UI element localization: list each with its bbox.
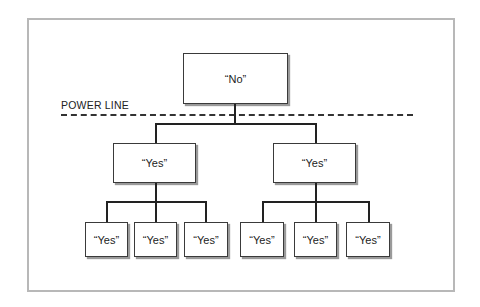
- level2-node-left: “Yes”: [113, 143, 196, 183]
- node-label: “Yes”: [302, 157, 327, 169]
- node-label: “Yes”: [94, 234, 119, 246]
- connector: [106, 201, 108, 222]
- level3-node: “Yes”: [184, 222, 228, 257]
- node-label: “Yes”: [143, 234, 168, 246]
- connector: [262, 201, 264, 222]
- node-label: “Yes”: [249, 234, 274, 246]
- power-line-label: POWER LINE: [61, 99, 129, 111]
- node-label: “Yes”: [303, 234, 328, 246]
- connector: [205, 201, 207, 222]
- level3-node: “Yes”: [85, 222, 128, 257]
- connector: [315, 201, 317, 222]
- level3-node: “Yes”: [240, 222, 284, 257]
- connector: [234, 104, 236, 125]
- node-label: “Yes”: [193, 234, 218, 246]
- connector: [155, 123, 157, 143]
- node-label: “Yes”: [142, 157, 167, 169]
- connector: [155, 183, 157, 203]
- connector: [368, 201, 370, 222]
- level3-node: “Yes”: [294, 222, 337, 257]
- root-node-label: “No”: [225, 73, 246, 85]
- connector: [155, 123, 317, 125]
- power-line-divider: [61, 114, 413, 116]
- level2-node-right: “Yes”: [273, 143, 356, 183]
- level3-node: “Yes”: [134, 222, 177, 257]
- connector: [155, 201, 157, 222]
- connector: [315, 183, 317, 203]
- connector: [315, 123, 317, 143]
- level3-node: “Yes”: [346, 222, 390, 257]
- node-label: “Yes”: [355, 234, 380, 246]
- root-node: “No”: [183, 53, 288, 104]
